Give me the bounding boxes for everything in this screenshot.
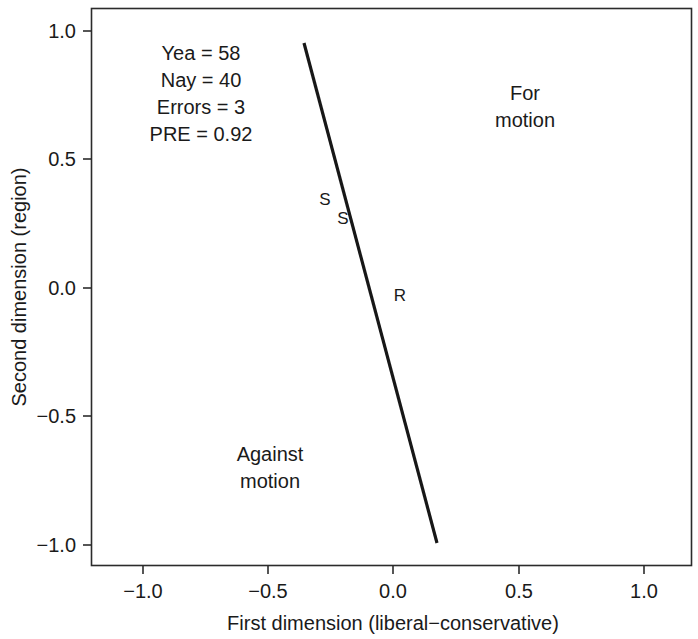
roll-call-scatter-figure: 1.0 0.5 0.0 −0.5 −1.0 −1.0 −0.5 0.0 0.5 …	[0, 0, 698, 639]
y-tick-label-3: −0.5	[37, 405, 76, 427]
for-motion-line2: motion	[495, 109, 555, 131]
for-motion-line1: For	[510, 82, 540, 104]
data-point-label-r1: R	[394, 286, 406, 305]
y-tick-label-2: 0.0	[48, 277, 76, 299]
errors-count-label: Errors = 3	[157, 96, 245, 118]
y-axis-title: Second dimension (region)	[8, 167, 30, 406]
x-tick-label-0: −1.0	[123, 580, 162, 602]
x-tick-label-3: 0.5	[505, 580, 533, 602]
data-point-label-s1: S	[319, 190, 330, 209]
plot-svg: 1.0 0.5 0.0 −0.5 −1.0 −1.0 −0.5 0.0 0.5 …	[0, 0, 698, 639]
y-tick-label-1: 0.5	[48, 148, 76, 170]
figure-background	[0, 0, 698, 639]
x-tick-label-2: 0.0	[379, 580, 407, 602]
against-motion-line1: Against	[237, 443, 304, 465]
x-axis-title: First dimension (liberal−conservative)	[227, 612, 559, 634]
y-tick-label-4: −1.0	[37, 534, 76, 556]
data-point-label-s2: S	[337, 209, 348, 228]
pre-statistic-label: PRE = 0.92	[150, 123, 253, 145]
x-tick-label-4: 1.0	[630, 580, 658, 602]
against-motion-line2: motion	[240, 470, 300, 492]
x-tick-label-1: −0.5	[248, 580, 287, 602]
y-tick-label-0: 1.0	[48, 20, 76, 42]
nay-count-label: Nay = 40	[161, 69, 242, 91]
yea-count-label: Yea = 58	[162, 42, 241, 64]
